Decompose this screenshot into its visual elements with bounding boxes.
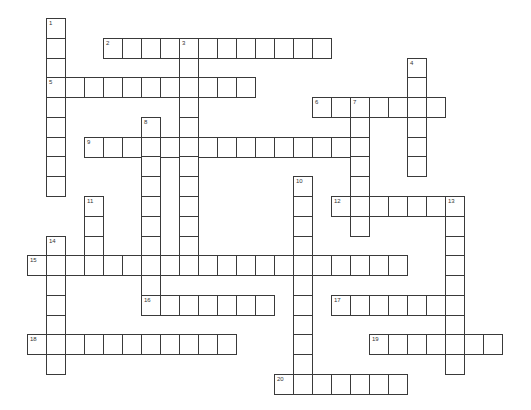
crossword-cell[interactable] [293, 334, 313, 355]
crossword-cell[interactable] [293, 255, 313, 276]
crossword-cell[interactable] [426, 295, 446, 316]
crossword-cell[interactable] [407, 137, 427, 158]
crossword-cell[interactable] [141, 77, 161, 98]
crossword-cell[interactable] [217, 77, 237, 98]
crossword-cell[interactable] [445, 334, 465, 355]
crossword-cell[interactable] [217, 137, 237, 158]
crossword-cell[interactable] [407, 97, 427, 118]
crossword-cell[interactable] [388, 334, 408, 355]
crossword-cell[interactable] [369, 97, 389, 118]
crossword-cell[interactable] [141, 196, 161, 217]
crossword-cell[interactable] [312, 38, 332, 59]
crossword-cell[interactable] [141, 156, 161, 177]
crossword-cell[interactable]: 3 [179, 38, 199, 59]
crossword-cell[interactable] [179, 295, 199, 316]
crossword-cell[interactable] [445, 295, 465, 316]
crossword-cell[interactable] [46, 315, 66, 336]
crossword-cell[interactable] [198, 255, 218, 276]
crossword-cell[interactable] [426, 196, 446, 217]
crossword-cell[interactable] [84, 216, 104, 237]
crossword-cell[interactable] [255, 137, 275, 158]
crossword-cell[interactable] [236, 295, 256, 316]
crossword-cell[interactable] [141, 38, 161, 59]
crossword-cell[interactable] [65, 77, 85, 98]
crossword-cell[interactable] [84, 236, 104, 257]
crossword-cell[interactable] [46, 58, 66, 79]
crossword-cell[interactable] [388, 295, 408, 316]
crossword-cell[interactable] [464, 334, 484, 355]
crossword-cell[interactable] [388, 374, 408, 395]
crossword-cell[interactable] [46, 275, 66, 296]
crossword-cell[interactable] [65, 334, 85, 355]
crossword-cell[interactable] [160, 255, 180, 276]
crossword-cell[interactable] [445, 275, 465, 296]
crossword-cell[interactable] [65, 255, 85, 276]
crossword-cell[interactable] [46, 255, 66, 276]
crossword-cell[interactable] [84, 334, 104, 355]
crossword-cell[interactable]: 18 [27, 334, 47, 355]
crossword-cell[interactable] [236, 255, 256, 276]
crossword-cell[interactable] [46, 97, 66, 118]
crossword-cell[interactable]: 14 [46, 236, 66, 257]
crossword-cell[interactable] [407, 196, 427, 217]
crossword-cell[interactable] [179, 97, 199, 118]
crossword-cell[interactable] [179, 255, 199, 276]
crossword-cell[interactable]: 12 [331, 196, 351, 217]
crossword-cell[interactable] [122, 38, 142, 59]
crossword-cell[interactable] [407, 334, 427, 355]
crossword-cell[interactable] [407, 156, 427, 177]
crossword-cell[interactable]: 16 [141, 295, 161, 316]
crossword-cell[interactable]: 17 [331, 295, 351, 316]
crossword-cell[interactable] [274, 255, 294, 276]
crossword-cell[interactable] [312, 374, 332, 395]
crossword-cell[interactable] [407, 77, 427, 98]
crossword-cell[interactable] [350, 117, 370, 138]
crossword-cell[interactable] [312, 137, 332, 158]
crossword-cell[interactable] [179, 334, 199, 355]
crossword-cell[interactable] [312, 255, 332, 276]
crossword-cell[interactable]: 10 [293, 176, 313, 197]
crossword-cell[interactable] [103, 255, 123, 276]
crossword-cell[interactable]: 13 [445, 196, 465, 217]
crossword-cell[interactable] [122, 255, 142, 276]
crossword-cell[interactable] [179, 156, 199, 177]
crossword-cell[interactable] [369, 295, 389, 316]
crossword-cell[interactable] [293, 275, 313, 296]
crossword-cell[interactable]: 2 [103, 38, 123, 59]
crossword-cell[interactable] [350, 255, 370, 276]
crossword-cell[interactable] [369, 374, 389, 395]
crossword-cell[interactable]: 7 [350, 97, 370, 118]
crossword-cell[interactable] [483, 334, 503, 355]
crossword-cell[interactable] [141, 236, 161, 257]
crossword-cell[interactable] [293, 216, 313, 237]
crossword-cell[interactable] [255, 38, 275, 59]
crossword-cell[interactable]: 1 [46, 18, 66, 39]
crossword-cell[interactable] [407, 295, 427, 316]
crossword-cell[interactable] [122, 137, 142, 158]
crossword-cell[interactable] [350, 156, 370, 177]
crossword-cell[interactable]: 20 [274, 374, 294, 395]
crossword-cell[interactable] [388, 255, 408, 276]
crossword-cell[interactable] [217, 295, 237, 316]
crossword-cell[interactable] [141, 176, 161, 197]
crossword-cell[interactable] [141, 275, 161, 296]
crossword-cell[interactable] [179, 176, 199, 197]
crossword-cell[interactable] [445, 216, 465, 237]
crossword-cell[interactable] [103, 334, 123, 355]
crossword-cell[interactable] [141, 255, 161, 276]
crossword-cell[interactable] [84, 77, 104, 98]
crossword-cell[interactable] [293, 315, 313, 336]
crossword-cell[interactable] [426, 334, 446, 355]
crossword-cell[interactable] [350, 176, 370, 197]
crossword-cell[interactable] [293, 196, 313, 217]
crossword-cell[interactable] [350, 374, 370, 395]
crossword-cell[interactable] [160, 38, 180, 59]
crossword-cell[interactable] [255, 255, 275, 276]
crossword-cell[interactable] [179, 196, 199, 217]
crossword-cell[interactable] [236, 38, 256, 59]
crossword-cell[interactable] [160, 334, 180, 355]
crossword-cell[interactable] [331, 137, 351, 158]
crossword-cell[interactable] [217, 334, 237, 355]
crossword-cell[interactable] [236, 137, 256, 158]
crossword-cell[interactable] [388, 97, 408, 118]
